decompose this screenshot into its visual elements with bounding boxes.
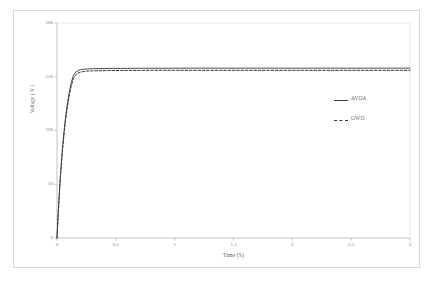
legend-label-avoa: AVOA <box>351 95 367 101</box>
legend-line-sample-solid <box>334 100 348 103</box>
plot-canvas <box>0 0 435 283</box>
legend-label-gwo: GWO <box>351 115 364 121</box>
legend-item-gwo: GWO <box>334 113 404 133</box>
legend-item-avoa: AVOA <box>334 93 404 113</box>
legend-line-sample-dashed <box>334 120 348 123</box>
chart-legend: AVOA GWO <box>334 93 404 133</box>
figure-container: Voltage ( V ) Time (S) 050100150200 00.5… <box>0 0 435 283</box>
